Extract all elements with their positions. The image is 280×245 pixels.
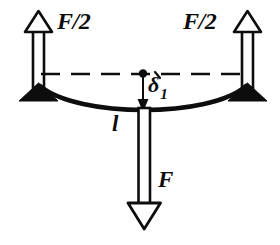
label-deflection-subscript: 1 — [160, 86, 168, 102]
beam-deflection-figure: F/2 F/2 δ1 l F — [0, 0, 280, 245]
label-span-length: l — [112, 112, 118, 135]
load-arrow — [128, 108, 161, 229]
label-deflection: δ1 — [148, 74, 167, 96]
reaction-arrow-left-shaft — [33, 30, 44, 88]
label-applied-load: F — [158, 168, 173, 191]
reaction-arrow-right-shaft — [242, 30, 253, 88]
reaction-arrow-right-head — [234, 11, 261, 32]
load-arrow-shaft — [139, 108, 151, 205]
reaction-arrow-left-head — [25, 11, 52, 32]
label-reaction-force-right: F/2 — [183, 9, 216, 33]
diagram-canvas — [0, 0, 280, 245]
label-reaction-force-left: F/2 — [57, 9, 90, 33]
label-deflection-symbol: δ — [148, 72, 159, 97]
reaction-arrow-left — [25, 11, 52, 88]
load-arrow-head — [128, 203, 161, 229]
reaction-arrow-right — [234, 11, 261, 88]
